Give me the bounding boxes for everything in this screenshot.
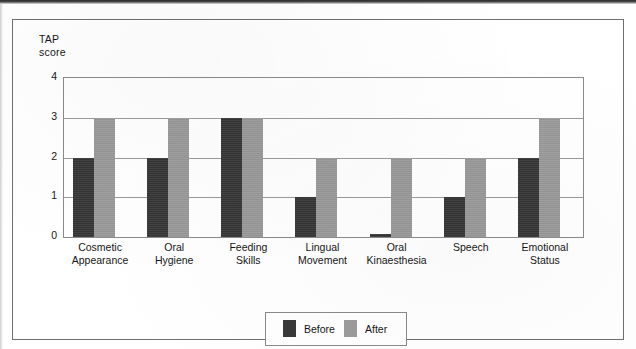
bar-after-2	[242, 118, 263, 237]
x-category-label-2: Feeding Skills	[211, 241, 285, 267]
bar-after-3	[316, 158, 337, 238]
x-category-label-5: Speech	[434, 241, 508, 254]
y-tick-label-0: 0	[31, 229, 57, 241]
x-category-label-6: Emotional Status	[508, 241, 582, 267]
x-category-label-1: Oral Hygiene	[137, 241, 211, 267]
x-category-label-4: Oral Kinaesthesia	[360, 241, 434, 267]
y-tick-label-2: 2	[31, 150, 57, 162]
bar-before-2	[221, 118, 242, 237]
bar-after-5	[465, 158, 486, 238]
y-tick-label-4: 4	[31, 70, 57, 82]
x-category-label-0: Cosmetic Appearance	[63, 241, 137, 267]
y-tick-label-1: 1	[31, 189, 57, 201]
bar-before-6	[518, 158, 539, 238]
legend-label-after: After	[365, 323, 387, 335]
y-tick-label-3: 3	[31, 110, 57, 122]
bar-before-3	[295, 197, 316, 237]
y-axis-tick-labels: 43210	[25, 77, 57, 236]
bar-before-5	[444, 197, 465, 237]
legend-label-before: Before	[304, 323, 335, 335]
bar-after-4	[391, 158, 412, 238]
legend-swatch-before	[283, 320, 296, 337]
bar-before-1	[147, 158, 168, 238]
legend-swatch-after	[344, 320, 357, 337]
x-axis-category-labels: Cosmetic AppearanceOral HygieneFeeding S…	[63, 241, 582, 273]
plot-area	[63, 77, 584, 238]
bars-layer	[64, 78, 583, 237]
y-axis-title: TAP score	[39, 33, 66, 59]
chart-legend: BeforeAfter	[265, 312, 407, 346]
bar-after-1	[168, 118, 189, 237]
scan-left-edge	[0, 0, 3, 349]
bar-after-0	[94, 118, 115, 237]
figure-frame: TAP score 43210 Cosmetic AppearanceOral …	[12, 19, 624, 340]
scan-top-edge	[0, 0, 636, 4]
x-category-label-3: Lingual Movement	[285, 241, 359, 267]
bar-before-4	[370, 234, 391, 237]
legend-entry-before: Before	[283, 320, 335, 337]
bar-after-6	[539, 118, 560, 237]
legend-entry-after: After	[344, 320, 387, 337]
bar-before-0	[73, 158, 94, 238]
